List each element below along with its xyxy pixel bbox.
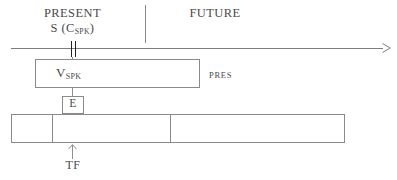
pres-box-label-main: V xyxy=(56,65,66,80)
pres-side-label: PRES xyxy=(209,70,232,80)
timeline-diagram: PRESENT S (CSPK) FUTURE VSPK PRES E TF xyxy=(0,0,397,180)
time-axis-line xyxy=(11,48,383,49)
pres-box-label-subscript: SPK xyxy=(66,72,82,81)
speech-marker-main: S (C xyxy=(51,21,75,35)
speech-marker-label: S (CSPK) xyxy=(0,21,145,36)
situation-bar-divider-1 xyxy=(52,114,53,143)
tf-label: TF xyxy=(52,158,94,173)
speech-marker-subscript: SPK xyxy=(75,27,90,36)
situation-bar-divider-2 xyxy=(170,114,171,143)
right-arrow-icon xyxy=(382,43,391,53)
future-label: FUTURE xyxy=(150,6,280,21)
double-bar-marker-icon xyxy=(71,41,77,57)
present-label: PRESENT xyxy=(0,6,145,21)
speech-marker-close: ) xyxy=(90,21,95,35)
present-future-divider xyxy=(145,5,146,43)
up-arrow-icon xyxy=(67,144,78,159)
pres-box-label: VSPK xyxy=(56,65,81,81)
situation-bar xyxy=(11,114,345,143)
event-box-label: E xyxy=(62,97,84,109)
